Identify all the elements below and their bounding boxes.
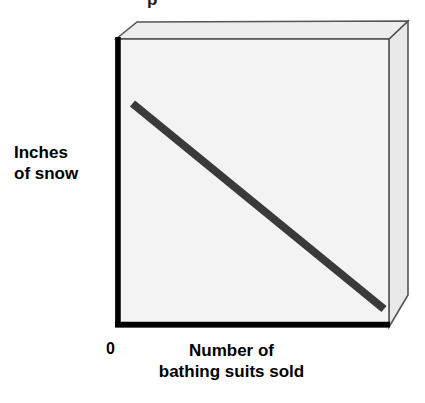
slab-side-face [389, 21, 408, 327]
y-axis-label-line-1: Inches [14, 142, 78, 163]
x-axis-label-line-2: bathing suits sold [38, 361, 425, 382]
clipped-text-fragment: p [147, 0, 157, 10]
x-axis-label-line-1: Number of [38, 340, 425, 361]
y-axis-label: Inches of snow [14, 142, 78, 185]
y-axis-label-line-2: of snow [14, 163, 78, 184]
correlation-figure: p Inches of snow 0 Number of bathing sui… [0, 0, 425, 403]
slab-top-face [116, 21, 408, 39]
x-axis-label: Number of bathing suits sold [0, 340, 425, 383]
